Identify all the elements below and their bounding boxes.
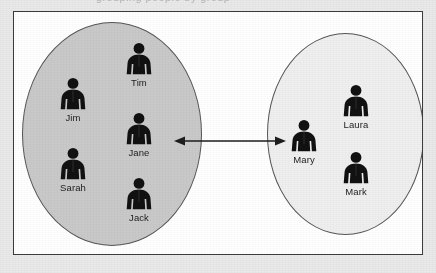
person-icon bbox=[58, 147, 88, 181]
person-icon bbox=[341, 84, 371, 118]
person-node[interactable]: Jack bbox=[112, 177, 166, 224]
person-label: Sarah bbox=[46, 182, 100, 194]
person-icon bbox=[58, 77, 88, 111]
person-node[interactable]: Jane bbox=[112, 112, 166, 159]
person-icon bbox=[289, 119, 319, 153]
person-label: Jim bbox=[46, 112, 100, 124]
person-label: Mark bbox=[329, 186, 383, 198]
diagram-canvas: grouping people by group Tim bbox=[0, 0, 436, 273]
person-node[interactable]: Tim bbox=[112, 42, 166, 89]
person-label: Tim bbox=[112, 77, 166, 89]
person-node[interactable]: Laura bbox=[329, 84, 383, 131]
person-icon bbox=[124, 112, 154, 146]
person-label: Mary bbox=[277, 154, 331, 166]
diagram-inner-canvas: Tim Jim Jane bbox=[14, 12, 422, 254]
clipped-caption-text: grouping people by group bbox=[96, 0, 246, 3]
diagram-frame: Tim Jim Jane bbox=[13, 11, 423, 255]
person-icon bbox=[124, 42, 154, 76]
person-label: Jane bbox=[112, 147, 166, 159]
person-label: Laura bbox=[329, 119, 383, 131]
person-node[interactable]: Sarah bbox=[46, 147, 100, 194]
person-icon bbox=[341, 151, 371, 185]
person-icon bbox=[124, 177, 154, 211]
person-node[interactable]: Mark bbox=[329, 151, 383, 198]
person-label: Jack bbox=[112, 212, 166, 224]
person-node[interactable]: Jim bbox=[46, 77, 100, 124]
person-node[interactable]: Mary bbox=[277, 119, 331, 166]
bidirectional-arrow[interactable] bbox=[172, 124, 288, 158]
